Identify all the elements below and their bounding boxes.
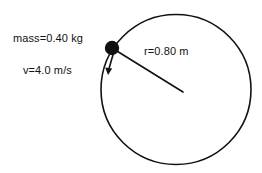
diagram-canvas <box>0 0 262 173</box>
mass-point-marker <box>105 41 119 55</box>
orbit-circle <box>101 15 251 165</box>
velocity-label: v=4.0 m/s <box>23 64 72 77</box>
velocity-arrowhead-icon <box>105 68 112 75</box>
radius-label: r=0.80 m <box>144 45 189 58</box>
circular-motion-diagram: mass=0.40 kg v=4.0 m/s r=0.80 m <box>0 0 262 173</box>
mass-label: mass=0.40 kg <box>13 32 83 45</box>
